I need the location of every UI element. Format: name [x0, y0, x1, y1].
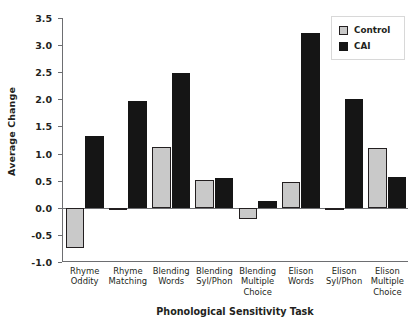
y-axis-tick: 1.0	[58, 154, 62, 155]
x-axis-tick-label: ElisonMultipleChoice	[366, 266, 409, 297]
bar-control	[368, 148, 387, 208]
legend-item-control: Control	[339, 22, 398, 38]
y-axis-tick: 2.0	[58, 99, 62, 100]
y-axis-tick: 1.5	[58, 126, 62, 127]
y-axis-tick: 3.5	[58, 18, 62, 19]
y-axis-tick-label: 3.5	[35, 13, 52, 24]
y-axis-tick-label: 1.0	[35, 148, 52, 159]
y-axis-tick-label: 0.0	[35, 202, 52, 213]
y-axis-tick-label: 1.5	[35, 121, 52, 132]
bar-chart-figure: Average Change 3.53.02.52.01.51.00.50.0-…	[0, 0, 416, 329]
y-axis-tick-label: -1.0	[31, 257, 52, 268]
y-axis-tick: -0.5	[58, 235, 62, 236]
bar-cai	[128, 101, 147, 208]
cai-swatch-icon	[339, 42, 348, 51]
bar-control	[282, 182, 301, 207]
y-axis-tick-label: -0.5	[31, 229, 52, 240]
x-axis-line	[62, 261, 408, 262]
y-axis-tick: 0.0	[58, 208, 62, 209]
x-axis-title: Phonological Sensitivity Task	[62, 306, 408, 317]
x-axis-tick-label: BlendingSyl/Phon	[193, 266, 236, 287]
y-axis-tick: 0.5	[58, 181, 62, 182]
x-axis-tick-label: BlendingMultipleChoice	[236, 266, 279, 297]
bar-control	[239, 208, 258, 219]
bar-cai	[345, 99, 364, 207]
x-axis-tick-label: BlendingWords	[150, 266, 193, 287]
legend-item-cai: CAI	[339, 38, 398, 54]
bar-control	[152, 147, 171, 208]
x-axis-tick-label: RhymeOddity	[63, 266, 106, 287]
y-axis-tick: -1.0	[58, 262, 62, 263]
legend-label-cai: CAI	[354, 41, 371, 51]
y-axis-tick-label: 0.5	[35, 175, 52, 186]
x-axis-tick-label: RhymeMatching	[106, 266, 149, 287]
x-axis-tick-label: ElisonWords	[279, 266, 322, 287]
bar-control	[66, 208, 85, 249]
bar-cai	[172, 73, 191, 207]
y-axis-line	[62, 18, 63, 262]
bar-cai	[301, 33, 320, 208]
bar-cai	[258, 201, 277, 208]
bar-cai	[388, 177, 407, 208]
y-axis-tick-label: 2.0	[35, 94, 52, 105]
y-axis-title: Average Change	[0, 0, 22, 262]
bar-cai	[85, 136, 104, 208]
y-axis-tick: 3.0	[58, 45, 62, 46]
y-axis-title-text: Average Change	[6, 87, 17, 176]
y-axis-tick-label: 3.0	[35, 40, 52, 51]
chart-legend: Control CAI	[331, 16, 405, 60]
x-axis-tick-label: ElisonSyl/Phon	[323, 266, 366, 287]
bar-control	[195, 180, 214, 208]
bar-control	[325, 208, 344, 211]
control-swatch-icon	[339, 26, 348, 35]
y-axis-tick: 2.5	[58, 72, 62, 73]
bar-cai	[215, 178, 234, 208]
bar-control	[109, 208, 128, 210]
legend-label-control: Control	[354, 25, 390, 35]
y-axis-tick-label: 2.5	[35, 67, 52, 78]
